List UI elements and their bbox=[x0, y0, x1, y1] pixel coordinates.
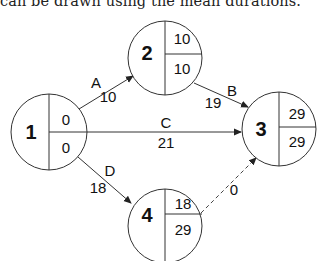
node-label: 4 bbox=[141, 204, 153, 226]
node-early-time: 18 bbox=[175, 195, 192, 212]
node-late-time: 0 bbox=[62, 139, 70, 156]
edge-duration-label: 0 bbox=[230, 181, 238, 198]
edge-duration-label: 21 bbox=[158, 134, 175, 151]
edge-activity-label: B bbox=[227, 82, 237, 99]
edge-duration-label: 10 bbox=[100, 88, 117, 105]
node-early-time: 0 bbox=[62, 111, 70, 128]
node-3: 3 29 29 bbox=[242, 92, 316, 166]
edge-duration-label: 18 bbox=[90, 179, 107, 196]
node-late-time: 10 bbox=[174, 60, 191, 77]
node-late-time: 29 bbox=[175, 221, 192, 238]
network-diagram: A 10 B 19 C 21 D 18 0 1 0 0 2 10 10 bbox=[0, 0, 323, 261]
node-label: 3 bbox=[255, 118, 266, 140]
node-2: 2 10 10 bbox=[128, 21, 202, 95]
node-4: 4 18 29 bbox=[128, 189, 202, 261]
dashed-arrow-icon bbox=[201, 158, 256, 213]
edge-duration-label: 19 bbox=[205, 94, 222, 111]
edge-C: C 21 bbox=[87, 114, 241, 151]
edge-activity-label: C bbox=[161, 114, 172, 131]
node-early-time: 29 bbox=[289, 105, 306, 122]
node-1: 1 0 0 bbox=[11, 94, 87, 170]
node-label: 1 bbox=[25, 121, 36, 143]
node-label: 2 bbox=[141, 42, 152, 64]
node-late-time: 29 bbox=[289, 133, 306, 150]
edge-D: D 18 bbox=[78, 157, 131, 203]
edge-A: A 10 bbox=[79, 74, 133, 109]
edge-activity-label: D bbox=[105, 162, 116, 179]
edge-dummy: 0 bbox=[201, 158, 256, 213]
edge-B: B 19 bbox=[194, 82, 248, 111]
node-early-time: 10 bbox=[174, 30, 191, 47]
